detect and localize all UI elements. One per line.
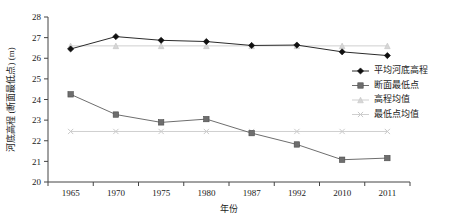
data-point-diamond: [203, 38, 209, 44]
data-point-diamond: [357, 68, 363, 74]
line-chart: 202122232425262728 196519701975198019871…: [0, 0, 455, 221]
y-axis-ticks: 202122232425262728: [32, 12, 48, 187]
chart-series-group: [68, 33, 391, 162]
y-axis-title: 河底高程 (断面最低点) (m): [5, 47, 16, 152]
legend-item[interactable]: 最低点均值: [352, 108, 419, 119]
y-tick-label: 20: [32, 177, 42, 187]
y-tick-label: 26: [32, 53, 42, 63]
legend-item[interactable]: 平均河底高程: [352, 64, 428, 75]
x-tick-label: 2010: [333, 188, 352, 198]
y-tick-label: 22: [32, 136, 41, 146]
y-tick-label: 21: [32, 157, 41, 167]
data-point-square: [68, 92, 73, 97]
x-tick-label: 1987: [243, 188, 262, 198]
data-point-square: [249, 130, 254, 135]
legend-item[interactable]: 高程均值: [352, 93, 410, 104]
legend-label: 高程均值: [374, 93, 410, 104]
data-point-diamond: [384, 52, 390, 58]
chart-legend: 平均河底高程断面最低点高程均值最低点均值: [352, 64, 428, 119]
x-tick-label: 2011: [379, 188, 397, 198]
legend-label: 平均河底高程: [374, 64, 428, 75]
x-tick-label: 1965: [62, 188, 81, 198]
data-point-square: [158, 120, 163, 125]
data-point-square: [339, 157, 344, 162]
data-point-square: [294, 142, 299, 147]
series-4: [68, 129, 390, 134]
y-tick-label: 25: [32, 74, 42, 84]
x-axis-title: 年份: [220, 203, 238, 214]
data-point-square: [204, 116, 209, 121]
y-tick-label: 23: [32, 115, 42, 125]
legend-label: 最低点均值: [374, 108, 419, 119]
y-tick-label: 24: [32, 95, 42, 105]
series-2: [68, 92, 390, 163]
legend-item[interactable]: 断面最低点: [352, 79, 419, 90]
data-point-diamond: [158, 37, 164, 43]
x-tick-label: 1975: [152, 188, 171, 198]
chart-container: 202122232425262728 196519701975198019871…: [0, 0, 455, 221]
data-point-square: [385, 155, 390, 160]
series-line: [71, 94, 388, 159]
legend-label: 断面最低点: [374, 79, 419, 90]
data-point-diamond: [339, 49, 345, 55]
data-point-square: [358, 83, 363, 88]
x-tick-label: 1980: [197, 188, 216, 198]
y-tick-label: 28: [32, 12, 42, 22]
y-tick-label: 27: [32, 33, 42, 43]
x-tick-label: 1970: [107, 188, 126, 198]
x-axis-ticks: 19651970197519801987199220102011: [48, 182, 410, 198]
data-point-diamond: [113, 33, 119, 39]
x-tick-label: 1992: [288, 188, 306, 198]
data-point-square: [113, 112, 118, 117]
